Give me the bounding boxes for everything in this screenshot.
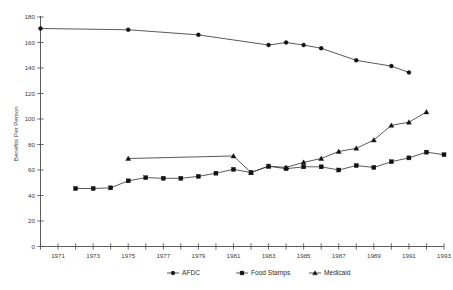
data-point-circle <box>126 28 130 32</box>
y-tick-label: 100 <box>25 115 36 122</box>
x-tick-label: 1989 <box>367 252 381 259</box>
x-tick-label: 1979 <box>192 252 206 259</box>
data-point-square <box>424 150 428 154</box>
data-point-square <box>196 174 200 178</box>
x-tick-label: 1981 <box>227 252 241 259</box>
x-tick-label: 1983 <box>262 252 276 259</box>
legend-label: Food Stamps <box>251 269 291 277</box>
legend-label: AFDC <box>182 269 200 276</box>
data-point-circle <box>267 43 271 47</box>
data-point-square <box>319 165 323 169</box>
data-point-square <box>144 176 148 180</box>
data-point-circle <box>302 43 306 47</box>
data-point-circle <box>319 46 323 50</box>
data-point-square <box>354 164 358 168</box>
data-point-square <box>407 156 411 160</box>
x-tick-label: 1977 <box>156 252 170 259</box>
data-point-square <box>74 186 78 190</box>
data-point-circle <box>284 41 288 45</box>
y-tick-label: 160 <box>25 39 36 46</box>
data-point-square <box>389 160 393 164</box>
data-point-circle <box>407 70 411 74</box>
data-point-square <box>240 271 244 275</box>
data-point-circle <box>389 64 393 68</box>
x-tick-label: 1985 <box>297 252 311 259</box>
x-tick-label: 1987 <box>332 252 346 259</box>
y-axis-title-text: Benefits Per Person <box>12 106 19 162</box>
data-point-square <box>214 171 218 175</box>
y-tick-label: 60 <box>28 166 35 173</box>
data-point-square <box>337 168 341 172</box>
data-point-circle <box>196 33 200 37</box>
data-point-circle <box>171 271 175 275</box>
y-tick-label: 0 <box>32 243 36 250</box>
x-tick-label: 1991 <box>402 252 416 259</box>
data-point-square <box>442 153 446 157</box>
legend-label: Medicaid <box>324 269 351 276</box>
data-point-circle <box>354 58 358 62</box>
data-point-square <box>179 176 183 180</box>
y-tick-label: 140 <box>25 64 36 71</box>
data-point-square <box>231 167 235 171</box>
x-tick-label: 1993 <box>437 252 451 259</box>
x-tick-label: 1975 <box>121 252 135 259</box>
data-point-square <box>126 179 130 183</box>
x-tick-label: 1973 <box>86 252 100 259</box>
data-point-square <box>372 165 376 169</box>
data-point-circle <box>39 26 43 30</box>
line-chart: 020406080100120140160180 197119731975197… <box>0 0 453 290</box>
chart-canvas: 020406080100120140160180 197119731975197… <box>0 0 453 290</box>
data-point-square <box>302 165 306 169</box>
chart-legend: AFDCFood StampsMedicaid <box>167 269 351 277</box>
y-tick-label: 120 <box>25 90 36 97</box>
y-axis-title: Benefits Per Person <box>12 106 19 162</box>
x-tick-label: 1971 <box>51 252 65 259</box>
y-tick-label: 80 <box>28 141 35 148</box>
y-tick-label: 20 <box>28 217 35 224</box>
data-point-square <box>161 176 165 180</box>
y-tick-label: 180 <box>25 13 36 20</box>
y-tick-label: 40 <box>28 192 35 199</box>
data-point-square <box>109 186 113 190</box>
data-point-square <box>91 186 95 190</box>
